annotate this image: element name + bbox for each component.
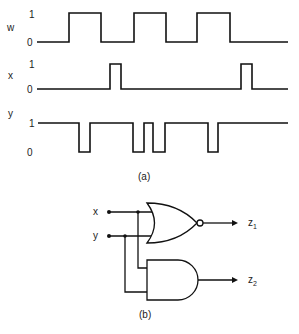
wire-x-to-and (138, 212, 147, 268)
level-label-y-0: 0 (27, 147, 33, 158)
input-label-y: y (93, 230, 98, 241)
logic-circuit: x y z1 z2 (b) (93, 203, 257, 320)
waveform-w (37, 13, 288, 42)
arrow-z1-icon (232, 220, 238, 226)
signal-label-w: w (6, 22, 15, 33)
level-label-x-1: 1 (29, 59, 35, 70)
output-label-z1: z1 (248, 217, 257, 230)
nor-gate (147, 203, 197, 243)
nor-inversion-bubble (197, 220, 203, 226)
level-label-w-1: 1 (29, 9, 35, 20)
timing-and-logic-diagram: w 1 0 x 1 0 y 1 0 (a) x y z1 (0, 0, 299, 334)
waveform-x (37, 64, 288, 89)
level-label-y-1: 1 (29, 118, 35, 129)
signal-label-x: x (8, 70, 13, 81)
wire-y-to-and (125, 236, 147, 292)
timing-diagram: w 1 0 x 1 0 y 1 0 (a) (6, 9, 288, 182)
level-label-x-0: 0 (27, 84, 33, 95)
arrow-z2-icon (232, 277, 238, 283)
level-label-w-0: 0 (27, 37, 33, 48)
signal-label-y: y (8, 108, 13, 119)
and-gate (147, 260, 198, 300)
caption-a: (a) (138, 171, 150, 182)
input-label-x: x (93, 206, 98, 217)
caption-b: (b) (139, 309, 151, 320)
output-label-z2: z2 (248, 274, 257, 287)
waveform-y (38, 123, 288, 152)
